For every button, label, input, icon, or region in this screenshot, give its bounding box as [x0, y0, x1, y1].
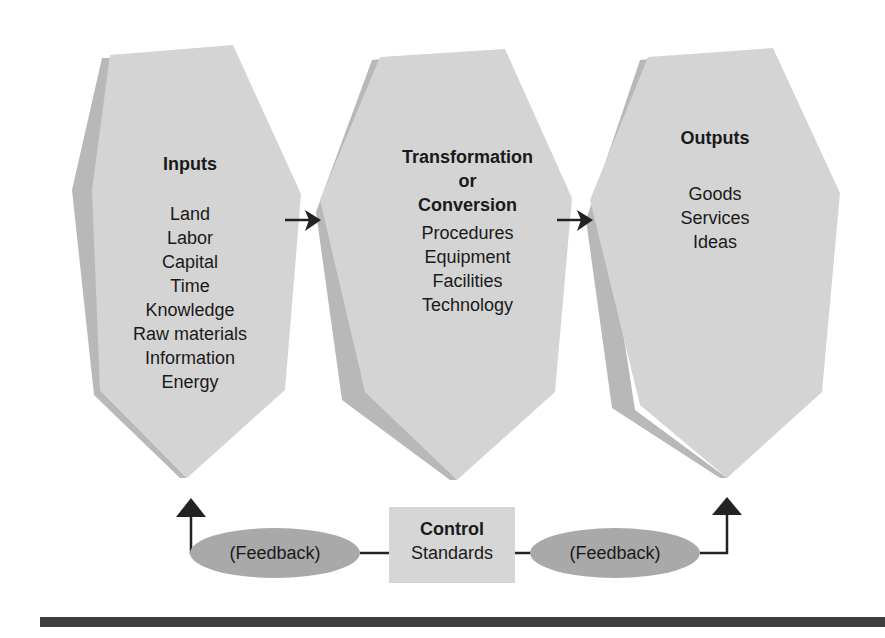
list-item: Labor — [100, 226, 280, 250]
list-item: Facilities — [365, 269, 570, 293]
list-item: Procedures — [365, 221, 570, 245]
arrowhead-up-icon — [712, 497, 742, 515]
list-item: Knowledge — [100, 298, 280, 322]
transformation-title-line-3: Conversion — [365, 193, 570, 217]
outputs-title: Outputs — [650, 126, 780, 150]
list-item: Energy — [100, 370, 280, 394]
control-subtitle: Standards — [389, 541, 515, 565]
outputs-label-group: Outputs Goods Services Ideas — [650, 126, 780, 254]
list-item: Equipment — [365, 245, 570, 269]
arrowhead-up-icon — [176, 498, 206, 517]
outputs-item-list: Goods Services Ideas — [650, 182, 780, 254]
inputs-item-list: Land Labor Capital Time Knowledge Raw ma… — [100, 202, 280, 394]
transformation-title-line-1: Transformation — [365, 145, 570, 169]
bottom-divider-rule — [40, 617, 885, 627]
feedback-left-label: (Feedback) — [190, 541, 360, 565]
control-box: Control Standards — [389, 507, 515, 583]
list-item: Land — [100, 202, 280, 226]
list-item: Services — [650, 206, 780, 230]
inputs-title: Inputs — [100, 152, 280, 176]
inputs-label-group: Inputs Land Labor Capital Time Knowledge… — [100, 152, 280, 394]
control-title: Control — [389, 517, 515, 541]
transformation-title-line-2: or — [365, 169, 570, 193]
list-item: Ideas — [650, 230, 780, 254]
list-item: Raw materials — [100, 322, 280, 346]
transformation-label-group: Transformation or Conversion Procedures … — [365, 145, 570, 317]
feedback-right-label: (Feedback) — [530, 541, 700, 565]
list-item: Time — [100, 274, 280, 298]
list-item: Capital — [100, 250, 280, 274]
transformation-item-list: Procedures Equipment Facilities Technolo… — [365, 221, 570, 317]
list-item: Goods — [650, 182, 780, 206]
list-item: Information — [100, 346, 280, 370]
outputs-stage-shape — [586, 48, 840, 478]
list-item: Technology — [365, 293, 570, 317]
